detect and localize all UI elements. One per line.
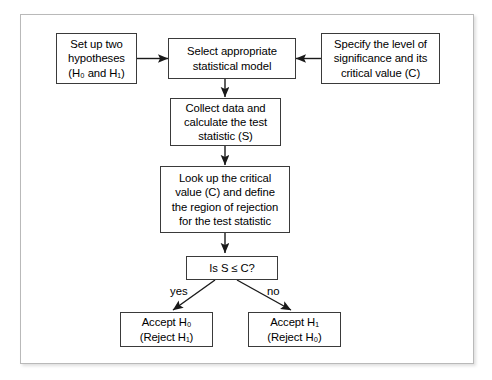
node-decision-is-s-le-c: Is S ≤ C? <box>186 256 278 280</box>
node-look-up-critical-value-label: Look up the critical value (C) and defin… <box>169 171 281 228</box>
node-accept-h0-label: Accept H₀ (Reject H₁) <box>137 315 197 343</box>
node-collect-data: Collect data and calculate the test stat… <box>170 98 281 146</box>
node-look-up-critical-value: Look up the critical value (C) and defin… <box>160 166 290 233</box>
edge-label-yes: yes <box>170 285 188 298</box>
node-accept-h0: Accept H₀ (Reject H₁) <box>120 312 213 347</box>
node-accept-h1: Accept H₁ (Reject H₀) <box>248 312 341 347</box>
node-setup-hypotheses: Set up two hypotheses (H₀ and H₁) <box>56 33 137 84</box>
node-collect-data-label: Collect data and calculate the test stat… <box>181 101 270 144</box>
node-decision-label: Is S ≤ C? <box>206 261 257 275</box>
flowchart-canvas: Set up two hypotheses (H₀ and H₁) Select… <box>0 0 492 380</box>
node-select-statistical-model-label: Select appropriate statistical model <box>184 44 280 72</box>
node-setup-hypotheses-label: Set up two hypotheses (H₀ and H₁) <box>65 37 128 80</box>
node-select-statistical-model: Select appropriate statistical model <box>168 38 296 79</box>
node-accept-h1-label: Accept H₁ (Reject H₀) <box>264 315 324 343</box>
edge-label-no: no <box>267 285 280 298</box>
node-specify-significance: Specify the level of significance and it… <box>321 33 440 84</box>
node-specify-significance-label: Specify the level of significance and it… <box>331 37 430 80</box>
